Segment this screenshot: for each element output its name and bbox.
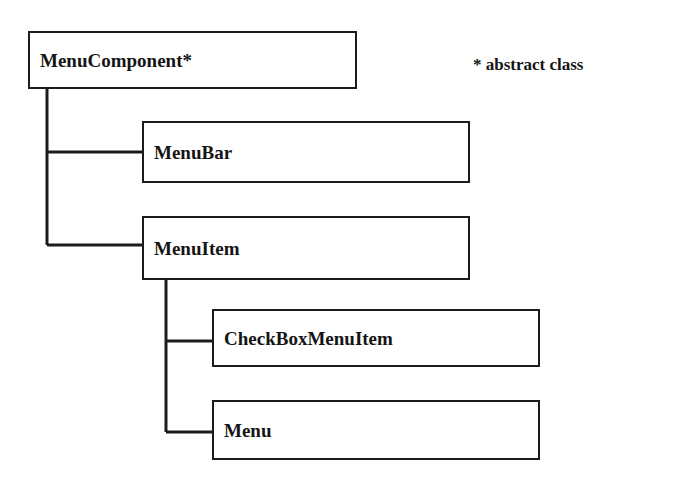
class-hierarchy-diagram: MenuComponent* MenuBar MenuItem CheckBox…	[0, 0, 681, 503]
legend-abstract-class: * abstract class	[473, 56, 583, 73]
class-box-menuitem: MenuItem	[142, 216, 470, 280]
class-box-menu: Menu	[212, 400, 540, 460]
class-box-checkboxmenuitem: CheckBoxMenuItem	[212, 309, 540, 367]
class-box-menubar: MenuBar	[142, 121, 470, 183]
class-label-menubar: MenuBar	[144, 143, 232, 162]
class-label-menuitem: MenuItem	[144, 239, 239, 258]
class-label-checkboxmenuitem: CheckBoxMenuItem	[214, 329, 393, 348]
class-box-menucomponent: MenuComponent*	[28, 31, 357, 89]
class-label-menu: Menu	[214, 421, 272, 440]
class-label-menucomponent: MenuComponent*	[30, 51, 192, 70]
